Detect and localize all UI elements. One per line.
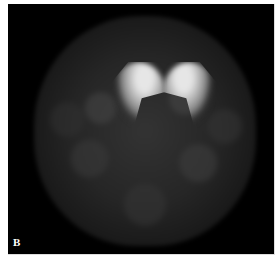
brain-outline [34,16,256,246]
panel-label: B [13,237,20,248]
scan-image-panel: B [8,4,275,255]
right-striatum-uptake [162,62,220,128]
